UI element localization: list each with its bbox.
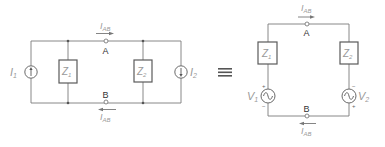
- terminal-b-left: B: [103, 90, 109, 104]
- equivalence-symbol: [218, 68, 232, 77]
- impedance-z2-left: Z2: [134, 60, 152, 82]
- circuit-diagram: I1 Z1 Z2 I2 A B IAB: [0, 0, 385, 147]
- terminal-node: [305, 114, 309, 118]
- junction-dot: [67, 102, 70, 105]
- junction-dot: [142, 102, 145, 105]
- node-b-label: B: [304, 104, 310, 114]
- node-a-label: A: [304, 28, 310, 38]
- terminal-node: [104, 39, 108, 43]
- current-iab-top-left: IAB: [96, 21, 114, 35]
- current-source-i2: I2: [175, 66, 197, 79]
- i2-label: I2: [190, 66, 197, 79]
- iab-label: IAB: [100, 21, 111, 32]
- current-iab-bottom-left: IAB: [98, 108, 116, 123]
- iab-label: IAB: [100, 112, 111, 123]
- right-circuit: Z1 Z2 + − V1 − + V2 A: [247, 3, 369, 137]
- equiv-bar: [218, 75, 232, 77]
- iab-label: IAB: [301, 3, 312, 14]
- current-iab-top-right: IAB: [298, 3, 315, 19]
- impedance-z1-right: Z1: [258, 42, 277, 64]
- i1-label: I1: [10, 66, 17, 79]
- v1-label: V1: [247, 90, 258, 103]
- polarity-minus: −: [352, 83, 356, 89]
- polarity-minus: −: [262, 103, 266, 109]
- v2-label: V2: [358, 90, 369, 103]
- left-circuit: I1 Z1 Z2 I2 A B IAB: [10, 21, 197, 123]
- arrowhead-left-icon: [98, 108, 103, 111]
- polarity-plus: +: [262, 83, 266, 89]
- arrowhead-right-icon: [109, 32, 114, 35]
- junction-dot: [142, 40, 145, 43]
- polarity-plus: +: [352, 103, 356, 109]
- arrowhead-left-icon: [299, 122, 304, 125]
- terminal-a-left: A: [103, 39, 109, 56]
- terminal-node: [104, 100, 108, 104]
- terminal-node: [305, 22, 309, 26]
- arrowhead-right-icon: [310, 15, 315, 18]
- impedance-z1-left: Z1: [59, 60, 77, 83]
- voltage-source-v2: − + V2: [342, 83, 369, 109]
- voltage-source-v1: + − V1: [247, 83, 275, 109]
- equiv-bar: [218, 72, 232, 74]
- current-iab-bottom-right: IAB: [299, 122, 316, 137]
- node-b-label: B: [103, 90, 109, 100]
- node-a-label: A: [103, 46, 109, 56]
- impedance-z2-right: Z2: [340, 42, 358, 64]
- current-source-i1: I1: [10, 66, 37, 79]
- equiv-bar: [218, 68, 232, 70]
- iab-label: IAB: [301, 126, 312, 137]
- junction-dot: [67, 40, 70, 43]
